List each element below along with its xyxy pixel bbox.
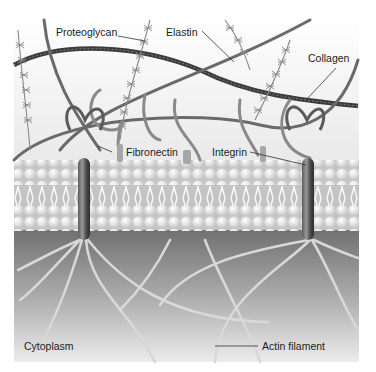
label-collagen: Collagen <box>308 52 349 64</box>
label-cytoplasm: Cytoplasm <box>24 340 74 352</box>
label-actin-filament: Actin filament <box>262 340 325 352</box>
label-integrin: Integrin <box>212 146 247 158</box>
label-fibronectin: Fibronectin <box>126 146 178 158</box>
label-proteoglycan: Proteoglycan <box>56 26 117 38</box>
label-elastin: Elastin <box>166 26 198 38</box>
